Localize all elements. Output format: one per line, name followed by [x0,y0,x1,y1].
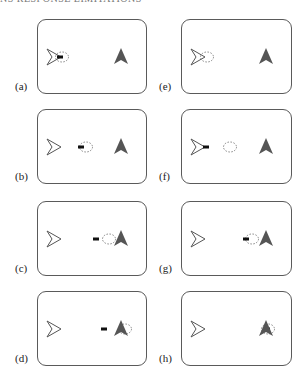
open-arrow-icon [191,139,205,155]
filled-arrow-icon [114,48,128,64]
panel-f [181,109,292,184]
filled-arrow-icon [259,230,273,246]
bar-marker [203,146,209,149]
open-arrow-icon [47,139,61,155]
bar-marker [78,146,84,149]
panel-a [37,19,147,94]
panel-label-d: (d) [15,352,28,364]
filled-arrow-icon [259,48,273,64]
filled-arrow-icon [114,320,128,336]
target-circle-icon [201,52,214,62]
panel-b [37,109,147,184]
panel-h [181,291,292,366]
panel-c [37,201,147,276]
target-circle-icon [224,142,237,152]
panel-label-e: (e) [159,80,171,92]
panel-label-b: (b) [15,170,28,182]
target-circle-icon [103,234,116,244]
filled-arrow-icon [114,138,128,154]
bar-marker [93,238,99,241]
panel-e [181,19,292,94]
open-arrow-icon [47,321,61,337]
panel-label-f: (f) [159,170,170,182]
open-arrow-icon [191,49,205,65]
open-arrow-icon [191,321,205,337]
open-arrow-icon [47,231,61,247]
filled-arrow-icon [259,320,273,336]
open-arrow-icon [191,231,205,247]
bar-marker [57,56,63,59]
bar-marker [101,328,107,331]
panel-label-h: (h) [159,352,172,364]
bar-marker [243,238,249,241]
panel-label-g: (g) [159,262,172,274]
panel-label-a: (a) [15,80,27,92]
panel-label-c: (c) [15,262,27,274]
section-header: NS RESPONSE LIMITATIONS [0,0,142,4]
panel-d [37,291,147,366]
panel-g [181,201,292,276]
filled-arrow-icon [114,230,128,246]
filled-arrow-icon [259,138,273,154]
